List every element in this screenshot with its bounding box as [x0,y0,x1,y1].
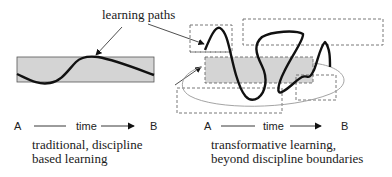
axis-end-label: B [341,120,348,132]
pointer-right-lower [175,67,201,85]
axis-start-label: A [204,120,212,132]
caption-line-2: beyond discipline boundaries [211,151,363,166]
axis-end-label: B [150,120,157,132]
discipline-box-2 [243,19,383,45]
discipline-band [17,57,154,82]
learning-paths-diagram: learning paths A time B traditional, dis… [0,0,392,177]
pointer-right-upper [148,24,204,44]
caption-line-2: based learning [32,151,108,166]
pointer-left [96,27,122,55]
caption-line-1: transformative learning, [211,137,336,152]
left-diagram: A time B traditional, discipline based l… [14,57,157,166]
axis-time-label: time [263,120,284,132]
axis-time-label: time [76,120,97,132]
axis-start-label: A [14,120,22,132]
caption-line-1: traditional, discipline [32,137,143,152]
learning-paths-label: learning paths [102,7,175,22]
discipline-box-3 [177,88,282,113]
right-diagram: A time B transformative learning, beyond… [177,19,383,166]
